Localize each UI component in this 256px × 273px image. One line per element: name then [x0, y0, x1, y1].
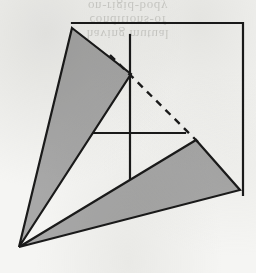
construction-dashed-line	[110, 55, 198, 142]
geometric-figure	[0, 0, 256, 273]
figure-page: on-rigid-body conditions-of having mutua…	[0, 0, 256, 273]
